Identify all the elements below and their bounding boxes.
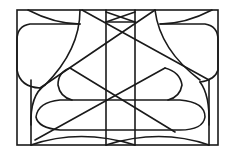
left-mid-lobe <box>58 68 72 100</box>
top-right-arc <box>160 10 212 24</box>
diagonal-down <box>82 10 209 80</box>
geometric-pattern <box>0 0 229 157</box>
top-left-arc <box>28 10 80 24</box>
left-curve-stem <box>45 10 80 85</box>
right-mid-lobe <box>165 68 182 100</box>
bottom-arc-right <box>106 137 209 146</box>
left-upper-lobe <box>17 24 80 88</box>
right-upper-lobe <box>160 24 218 82</box>
